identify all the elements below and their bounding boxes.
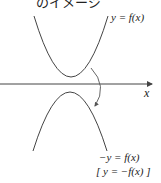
upper-parabola [34, 16, 108, 77]
upper-curve-label: y = f(x) [111, 11, 144, 23]
lower-curve-label: −y = f(x) [99, 151, 140, 163]
lower-parabola [33, 92, 107, 151]
reflection-arrow [91, 68, 101, 106]
x-axis-label: x [144, 86, 149, 101]
lower-curve-equivalent-label: [ y = −f(x) ] [96, 165, 151, 177]
